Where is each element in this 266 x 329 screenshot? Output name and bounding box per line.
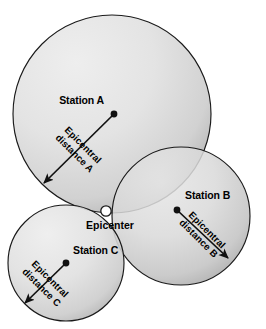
station-dot-c <box>63 260 70 267</box>
station-b-label: Station B <box>185 189 231 201</box>
station-dot-a <box>111 111 118 118</box>
station-a-label: Station A <box>59 94 104 106</box>
diagram-canvas: Station A Station B Station C Epicenter … <box>0 0 266 329</box>
station-c-label: Station C <box>73 244 119 256</box>
station-dot-b <box>174 207 181 214</box>
distance-circle-station-b <box>112 147 250 285</box>
epicenter-triangulation-svg: Station A Station B Station C Epicenter … <box>0 0 266 329</box>
epicenter-marker <box>101 206 111 216</box>
epicenter-label: Epicenter <box>86 219 134 231</box>
